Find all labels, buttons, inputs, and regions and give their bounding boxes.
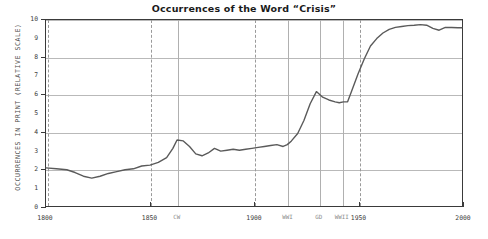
y-tick-label-5: 5 xyxy=(18,109,38,117)
x-tick-mark-1900 xyxy=(254,202,255,207)
y-tick-label-4: 4 xyxy=(18,128,38,136)
y-tick-label-2: 2 xyxy=(18,165,38,173)
y-tick-mark-0 xyxy=(41,207,46,208)
y-tick-mark-8 xyxy=(41,57,46,58)
x-tick-label-1950: 1950 xyxy=(351,214,366,222)
chart-title: Occurrences of the Word “Crisis” xyxy=(0,3,488,14)
y-tick-label-0: 0 xyxy=(18,203,38,211)
x-tick-label-1800: 1800 xyxy=(37,214,52,222)
y-tick-label-6: 6 xyxy=(18,90,38,98)
x-tick-label-1850: 1850 xyxy=(142,214,157,222)
x-event-label-cw: CW xyxy=(173,214,180,220)
data-series-crisis xyxy=(46,20,462,206)
series-line xyxy=(46,25,462,178)
y-tick-label-8: 8 xyxy=(18,53,38,61)
y-tick-label-7: 7 xyxy=(18,71,38,79)
y-tick-label-1: 1 xyxy=(18,184,38,192)
x-event-label-wwi: WWI xyxy=(282,214,292,220)
x-tick-label-1900: 1900 xyxy=(246,214,261,222)
x-tick-mark-1850 xyxy=(150,202,151,207)
y-tick-label-9: 9 xyxy=(18,34,38,42)
y-tick-label-3: 3 xyxy=(18,147,38,155)
chart-container: Occurrences of the Word “Crisis” OCCURRE… xyxy=(0,0,488,239)
plot-area xyxy=(45,19,463,207)
x-tick-mark-1800 xyxy=(45,202,46,207)
y-tick-mark-4 xyxy=(41,132,46,133)
y-tick-label-10: 10 xyxy=(18,15,38,23)
x-tick-mark-2000 xyxy=(463,202,464,207)
x-tick-label-2000: 2000 xyxy=(455,214,470,222)
x-event-label-gd: GD xyxy=(315,214,322,220)
x-event-label-wwii: WWII xyxy=(335,214,349,220)
x-tick-mark-1950 xyxy=(359,202,360,207)
y-tick-mark-10 xyxy=(41,19,46,20)
y-tick-mark-6 xyxy=(41,94,46,95)
y-tick-mark-2 xyxy=(41,169,46,170)
